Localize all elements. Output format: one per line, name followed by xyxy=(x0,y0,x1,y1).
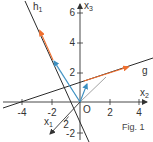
coordinate-diagram: -4 -2 2 4 x2 6 4 2 -2 x3 2 x1 h1 g xyxy=(0,0,153,142)
position-vector-h1 xyxy=(54,61,80,102)
x2-tick-label: 2 xyxy=(107,107,113,118)
g-label: g xyxy=(142,65,148,76)
x2-tick-label: 4 xyxy=(136,107,142,118)
x2-tick-label: -4 xyxy=(18,107,27,118)
position-vector-g xyxy=(80,84,87,102)
x1-tick-label: 2 xyxy=(63,119,69,130)
x3-axis: 6 4 2 -2 x3 xyxy=(66,0,93,140)
line-g: g xyxy=(3,58,153,108)
direction-vector-h1 xyxy=(40,31,53,60)
x3-tick-label: 4 xyxy=(69,37,75,48)
line-h1: h1 xyxy=(25,1,89,142)
x3-tick-label: 6 xyxy=(69,7,75,18)
figure-caption: Fig. 1 xyxy=(122,122,145,132)
x3-axis-label: x3 xyxy=(84,0,93,12)
origin-label: O xyxy=(83,104,91,115)
x3-tick-label: 2 xyxy=(69,67,75,78)
direction-vector-g xyxy=(84,67,128,81)
h1-label: h1 xyxy=(33,1,43,13)
x2-axis-label: x2 xyxy=(140,87,149,99)
